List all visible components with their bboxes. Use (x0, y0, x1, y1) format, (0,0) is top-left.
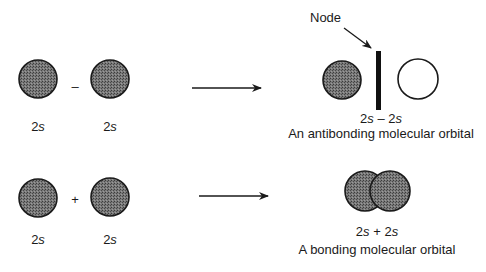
label-2s-left: 2s (31, 232, 45, 247)
orbital-empty-lobe-icon (398, 59, 438, 99)
bonding-caption: A bonding molecular orbital (299, 242, 456, 257)
label-2s-right: 2s (103, 119, 117, 134)
antibonding-combination: – 2s 2s (19, 60, 129, 134)
orbital-2s-left-icon (19, 60, 57, 98)
bonding-combination: + 2s 2s (19, 178, 129, 247)
orbital-2s-right-icon (91, 178, 129, 216)
node-plane-icon (376, 51, 381, 110)
bonding-expression: 2s + 2s (356, 224, 399, 239)
molecular-orbital-diagram: – 2s 2s Node 2s – 2s An antibonding mole… (0, 0, 486, 272)
node-pointer-arrow-icon (344, 28, 371, 48)
antibonding-caption: An antibonding molecular orbital (288, 126, 474, 141)
node-label: Node (310, 10, 341, 25)
orbital-2s-left-icon (19, 179, 57, 217)
antibonding-expression: 2s – 2s (360, 111, 402, 126)
orbital-2s-right-icon (91, 60, 129, 98)
antibonding-result: Node 2s – 2s An antibonding molecular or… (288, 10, 474, 141)
operator-plus: + (71, 192, 79, 207)
label-2s-right: 2s (103, 232, 117, 247)
label-2s-left: 2s (31, 119, 45, 134)
orbital-filled-lobe-icon (323, 61, 361, 99)
operator-minus: – (71, 79, 79, 94)
orbital-overlap-right-icon (370, 171, 410, 211)
bonding-result: 2s + 2s A bonding molecular orbital (299, 171, 456, 257)
